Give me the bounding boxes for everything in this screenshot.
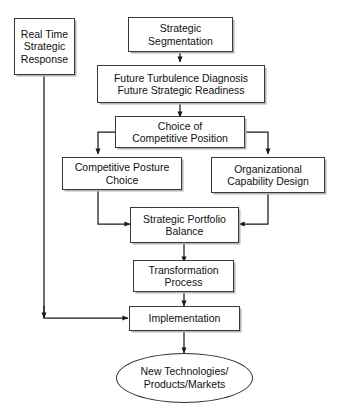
node-text-line: Transformation bbox=[137, 264, 230, 276]
node-text-line: Strategic Portfolio bbox=[134, 213, 235, 225]
edge-choice-to-posture bbox=[98, 132, 115, 154]
node-organizational-capability-design[interactable]: Organizational Capability Design bbox=[211, 157, 325, 193]
edge-posture-to-portfolio bbox=[98, 190, 130, 224]
node-text-line: Strategic bbox=[18, 40, 71, 52]
node-transformation-process[interactable]: Transformation Process bbox=[133, 260, 234, 292]
node-text-line: Competitive Position bbox=[119, 132, 241, 144]
node-strategic-portfolio-balance[interactable]: Strategic Portfolio Balance bbox=[130, 207, 239, 243]
node-text-line: Future Strategic Readiness bbox=[101, 84, 261, 96]
node-text-line: Future Turbulence Diagnosis bbox=[101, 72, 261, 84]
edge-capability-to-portfolio bbox=[239, 193, 268, 224]
node-implementation[interactable]: Implementation bbox=[129, 306, 240, 331]
node-choice-of-competitive-position[interactable]: Choice of Competitive Position bbox=[115, 116, 245, 148]
node-strategic-segmentation[interactable]: Strategic Segmentation bbox=[128, 17, 233, 52]
node-text-line: Strategic bbox=[132, 22, 229, 34]
node-text-line: New Technologies/ bbox=[141, 365, 229, 378]
node-text-line: Balance bbox=[134, 225, 235, 237]
flowchart-diagram: Real Time Strategic Response Strategic S… bbox=[0, 0, 339, 415]
node-text-line: Response bbox=[18, 53, 71, 65]
node-text-line: Products/Markets bbox=[141, 378, 229, 391]
node-text-line: Organizational bbox=[215, 163, 321, 175]
node-text-line: Capability Design bbox=[215, 175, 321, 187]
edge-realtime-to-implementation bbox=[44, 75, 128, 318]
node-text-line: Choice bbox=[66, 174, 178, 186]
edge-choice-to-capability bbox=[245, 132, 268, 154]
node-new-technologies-products-markets[interactable]: New Technologies/ Products/Markets bbox=[116, 353, 253, 403]
node-future-turbulence-diagnosis[interactable]: Future Turbulence Diagnosis Future Strat… bbox=[97, 65, 265, 103]
node-text-line: Real Time bbox=[18, 28, 71, 40]
node-competitive-posture-choice[interactable]: Competitive Posture Choice bbox=[62, 157, 182, 190]
node-text-line: Process bbox=[137, 276, 230, 288]
node-real-time-strategic-response[interactable]: Real Time Strategic Response bbox=[14, 18, 75, 75]
node-text-line: Choice of bbox=[119, 120, 241, 132]
node-text-line: Segmentation bbox=[132, 35, 229, 47]
node-text-line: Implementation bbox=[133, 312, 236, 324]
node-text-line: Competitive Posture bbox=[66, 161, 178, 173]
